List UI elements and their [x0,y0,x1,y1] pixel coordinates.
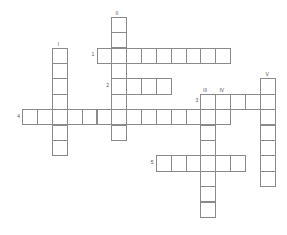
crossword-cell[interactable] [260,155,276,171]
crossword-cell[interactable] [37,109,53,125]
crossword-cell[interactable] [126,48,142,64]
crossword-cell[interactable] [200,140,216,156]
crossword-cell[interactable] [260,171,276,187]
crossword-cell[interactable] [52,48,68,64]
clue-number-across-5: 5 [151,159,154,165]
crossword-cell[interactable] [111,78,127,94]
crossword-cell[interactable] [141,48,157,64]
crossword-cell[interactable] [52,78,68,94]
crossword-cell[interactable] [200,109,216,125]
crossword-cell[interactable] [215,155,231,171]
crossword-cell[interactable] [111,63,127,79]
crossword-cell[interactable] [156,48,172,64]
crossword-cell[interactable] [22,109,38,125]
crossword-cell[interactable] [156,109,172,125]
crossword-cell[interactable] [67,109,83,125]
crossword-cell[interactable] [186,48,202,64]
clue-number-down-iii: III [203,87,207,93]
crossword-cell[interactable] [111,94,127,110]
clue-number-across-1: 1 [92,51,95,57]
clue-number-down-v: V [266,71,269,77]
clue-number-across-2: 2 [106,82,109,88]
crossword-cell[interactable] [111,125,127,141]
crossword-cell[interactable] [156,155,172,171]
crossword-cell[interactable] [126,109,142,125]
crossword-cell[interactable] [200,94,216,110]
crossword-cell[interactable] [171,155,187,171]
crossword-cell[interactable] [215,94,231,110]
crossword-cell[interactable] [230,155,246,171]
crossword-cell[interactable] [111,48,127,64]
crossword-cell[interactable] [111,109,127,125]
clue-number-down-i: I [58,41,59,47]
crossword-cell[interactable] [200,171,216,187]
crossword-cell[interactable] [186,109,202,125]
crossword-cell[interactable] [97,109,113,125]
crossword-cell[interactable] [52,125,68,141]
crossword-cell[interactable] [111,17,127,33]
crossword-cell[interactable] [200,186,216,202]
crossword-cell[interactable] [215,48,231,64]
crossword-cell[interactable] [52,63,68,79]
crossword-cell[interactable] [141,78,157,94]
crossword-cell[interactable] [97,48,113,64]
clue-number-down-iv: IV [219,87,224,93]
crossword-cell[interactable] [260,125,276,141]
crossword-cell[interactable] [186,155,202,171]
clue-number-across-3: 3 [195,97,198,103]
crossword-cell[interactable] [171,109,187,125]
crossword-cell[interactable] [52,94,68,110]
crossword-cell[interactable] [156,78,172,94]
crossword-cell[interactable] [52,109,68,125]
crossword-cell[interactable] [171,48,187,64]
crossword-cell[interactable] [52,140,68,156]
crossword-cell[interactable] [200,155,216,171]
crossword-cell[interactable] [200,202,216,218]
crossword-cell[interactable] [260,78,276,94]
crossword-cell[interactable] [260,109,276,125]
crossword-cell[interactable] [200,125,216,141]
crossword-cell[interactable] [111,32,127,48]
crossword-cell[interactable] [230,94,246,110]
crossword-cell[interactable] [200,48,216,64]
crossword-cell[interactable] [260,140,276,156]
clue-number-across-4: 4 [17,113,20,119]
crossword-cell[interactable] [126,78,142,94]
crossword-cell[interactable] [141,109,157,125]
crossword-cell[interactable] [215,109,231,125]
crossword-grid: 12345IIIIIIIVV [0,0,287,235]
clue-number-down-ii: II [116,10,119,16]
crossword-cell[interactable] [82,109,98,125]
crossword-cell[interactable] [245,94,261,110]
crossword-cell[interactable] [260,94,276,110]
